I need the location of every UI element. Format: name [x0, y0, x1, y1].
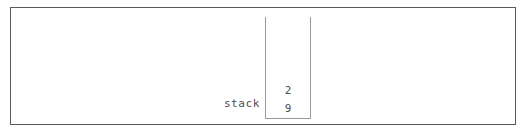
stack-label: stack: [161, 97, 260, 110]
stack-container: 2 9: [265, 17, 311, 119]
stack-diagram: stack 2 9: [11, 8, 517, 126]
diagram-canvas: stack 2 9: [10, 7, 516, 125]
stack-cells: 2 9: [266, 82, 310, 118]
stack-cell-bottom: 9: [266, 100, 310, 118]
stack-cell-top: 2: [266, 82, 310, 100]
